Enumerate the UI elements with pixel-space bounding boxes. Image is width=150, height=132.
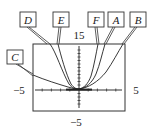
- leader-F: [95, 27, 99, 44]
- ymax-label: 15: [74, 29, 86, 41]
- xmax-label: 5: [133, 84, 139, 96]
- label-box-A: A: [108, 12, 124, 27]
- ymin-label: −5: [70, 116, 82, 128]
- label-B: B: [135, 14, 142, 26]
- leader-D: [27, 27, 50, 44]
- leader-B: [122, 27, 137, 44]
- graph-diagram: D E F A B C 15 −5 −5 5: [0, 0, 150, 132]
- leader-E: [57, 27, 61, 44]
- label-box-B: B: [130, 12, 146, 27]
- curve-A: [79, 44, 105, 89]
- label-D: D: [23, 14, 32, 26]
- label-F: F: [92, 14, 100, 26]
- label-box-D: D: [20, 12, 36, 27]
- label-box-E: E: [53, 12, 69, 27]
- label-A: A: [112, 14, 120, 26]
- label-box-C: C: [7, 50, 23, 64]
- curve-B: [79, 44, 123, 89]
- label-box-F: F: [88, 12, 104, 27]
- label-E: E: [57, 14, 65, 26]
- leader-C: [16, 64, 33, 76]
- label-C: C: [11, 51, 19, 63]
- leader-A: [104, 27, 115, 44]
- y-axis: [78, 46, 81, 108]
- xmin-label: −5: [13, 84, 25, 96]
